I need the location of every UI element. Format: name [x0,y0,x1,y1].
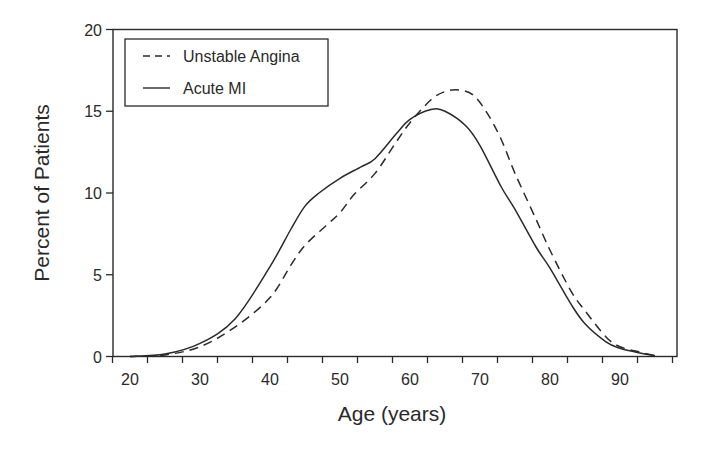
y-tick-label: 15 [84,103,102,120]
x-tick-label: 40 [261,371,279,388]
x-tick-label: 80 [541,371,559,388]
x-tick-label: 30 [191,371,209,388]
y-axis-title: Percent of Patients [30,104,53,281]
x-axis-title: Age (years) [338,402,447,425]
series-layer [130,90,655,357]
y-tick-label: 10 [84,185,102,202]
x-tick-label: 20 [121,371,139,388]
y-tick-label: 5 [93,267,102,284]
x-tick-label: 50 [331,371,349,388]
y-tick-label: 0 [93,349,102,366]
x-tick-label: 60 [401,371,419,388]
y-axis-ticks: 05101520 [84,22,113,366]
y-tick-label: 20 [84,22,102,39]
series-line-acute-mi [130,109,655,357]
x-tick-label: 90 [611,371,629,388]
x-tick-label: 70 [471,371,489,388]
line-chart: 05101520 2030405060708090 Unstable Angin… [0,0,702,450]
legend-label-acute-mi: Acute MI [183,80,246,97]
series-line-unstable-angina [130,90,655,357]
x-axis-ticks: 2030405060708090 [113,357,673,389]
legend: Unstable Angina Acute MI [125,39,328,106]
legend-label-unstable-angina: Unstable Angina [183,48,300,65]
